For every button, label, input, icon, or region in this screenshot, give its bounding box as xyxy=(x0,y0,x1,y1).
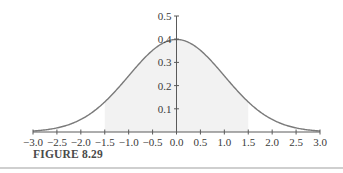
y-tick-label: 0.2 xyxy=(158,80,172,92)
y-tick-label: 0.3 xyxy=(158,56,172,68)
x-tick-label: −1.0 xyxy=(119,136,139,148)
x-tick-label: 1.0 xyxy=(217,136,231,148)
x-tick-label: −2.5 xyxy=(47,136,67,148)
x-tick-label: 0.0 xyxy=(170,136,184,148)
figure-caption: FIGURE 8.29 xyxy=(33,148,103,160)
y-tick-label: 0.1 xyxy=(158,103,172,115)
x-tick-label: 2.0 xyxy=(265,136,279,148)
axes xyxy=(33,16,320,132)
x-tick-label: −0.5 xyxy=(143,136,163,148)
x-tick-label: 0.5 xyxy=(194,136,208,148)
x-tick-label: 1.5 xyxy=(241,136,255,148)
x-tick-label: 2.5 xyxy=(289,136,303,148)
y-tick-label: 0.5 xyxy=(158,10,172,22)
x-tick-label: −3.0 xyxy=(23,136,43,148)
x-tick-label: −1.5 xyxy=(95,136,115,148)
x-tick-label: 3.0 xyxy=(313,136,327,148)
bottom-divider xyxy=(0,167,343,169)
x-tick-label: −2.0 xyxy=(71,136,91,148)
y-tick-label: 0.4 xyxy=(158,33,172,45)
